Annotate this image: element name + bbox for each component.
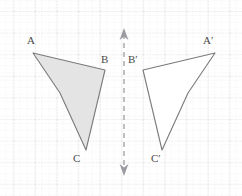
vertex-label-a: A — [27, 35, 35, 46]
vertex-label-b-prime: B′ — [128, 54, 138, 65]
geometry-figure — [0, 0, 242, 196]
vertex-label-c: C — [73, 153, 80, 164]
diagram-canvas: A B C A′ B′ C′ — [0, 0, 242, 196]
vertex-label-b: B — [101, 54, 108, 65]
vertex-label-a-prime: A′ — [203, 35, 213, 46]
vertex-label-c-prime: C′ — [151, 153, 161, 164]
